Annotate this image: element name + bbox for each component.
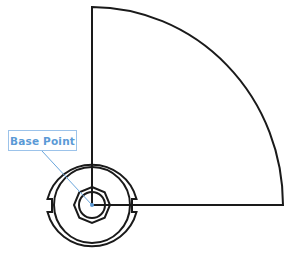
base-point-label: Base Point (10, 135, 75, 147)
drawing-canvas (0, 0, 291, 255)
base-point-marker[interactable] (90, 203, 94, 207)
base-point-callout: Base Point (8, 130, 77, 151)
leader-line (42, 151, 92, 205)
